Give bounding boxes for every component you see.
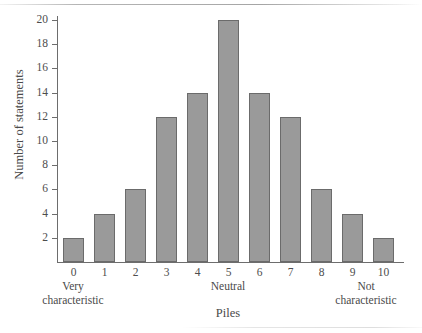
y-axis-tick-label: 14 — [26, 87, 48, 99]
y-axis-tick — [52, 20, 57, 21]
x-axis-tick-label: 4 — [183, 266, 213, 278]
axis-anchor-high-line2: characteristic — [312, 294, 420, 308]
y-axis-tick-label: 20 — [26, 14, 48, 26]
y-axis-tick — [52, 165, 57, 166]
y-axis-tick-label-wrap: 4 — [22, 208, 48, 220]
y-axis-tick — [52, 189, 57, 190]
y-axis-tick-label-wrap: 6 — [22, 183, 48, 195]
bar — [125, 189, 146, 262]
axis-anchor-mid: Neutral — [168, 280, 288, 294]
y-axis-tick-label-wrap: 2 — [22, 232, 48, 244]
y-axis-tick — [52, 214, 57, 215]
bar — [187, 93, 208, 262]
axis-anchor-low-line1: Very — [2, 280, 144, 294]
x-axis-tick-label: 8 — [307, 266, 337, 278]
y-axis-tick — [52, 117, 57, 118]
y-axis-tick-label: 6 — [26, 183, 48, 195]
axis-anchor-high: Not characteristic — [312, 280, 420, 307]
y-axis-tick-label-wrap: 18 — [22, 38, 48, 50]
axis-anchor-low-line2: characteristic — [2, 294, 144, 308]
y-axis-tick — [52, 238, 57, 239]
bar — [63, 238, 84, 262]
y-axis-tick-label-wrap: 14 — [22, 87, 48, 99]
y-axis-tick-label-wrap: 10 — [22, 135, 48, 147]
x-axis-tick-label: 6 — [245, 266, 275, 278]
x-axis-tick-label: 7 — [276, 266, 306, 278]
x-axis-tick-label: 9 — [338, 266, 368, 278]
y-axis-tick — [52, 93, 57, 94]
x-axis-line — [57, 262, 404, 263]
x-axis-tick-label: 1 — [90, 266, 120, 278]
y-axis-tick — [52, 68, 57, 69]
y-axis-tick-label: 18 — [26, 38, 48, 50]
bar — [311, 189, 332, 262]
y-axis-tick — [52, 141, 57, 142]
axis-anchor-high-line1: Not — [312, 280, 420, 294]
y-axis-tick-label: 10 — [26, 135, 48, 147]
bar-chart-figure: 2468101214161820 Number of statements 01… — [0, 0, 422, 333]
bar — [249, 93, 270, 262]
axis-anchor-mid-line1: Neutral — [168, 280, 288, 294]
bar — [94, 214, 115, 262]
x-axis-tick-label: 10 — [369, 266, 399, 278]
bar — [342, 214, 363, 262]
y-axis-tick-label: 8 — [26, 159, 48, 171]
axis-anchor-low: Very characteristic — [2, 280, 144, 307]
y-axis-tick-label: 2 — [26, 232, 48, 244]
y-axis-tick-label: 16 — [26, 62, 48, 74]
x-axis-tick-label: 0 — [59, 266, 89, 278]
y-axis-tick-label-wrap: 20 — [22, 14, 48, 26]
y-axis-tick-label-wrap: 8 — [22, 159, 48, 171]
y-axis-tick — [52, 44, 57, 45]
x-axis-tick-label: 5 — [214, 266, 244, 278]
x-axis-title: Piles — [168, 306, 288, 320]
x-axis-tick-label: 3 — [152, 266, 182, 278]
y-axis-tick-label-wrap: 16 — [22, 62, 48, 74]
bar — [280, 117, 301, 262]
y-axis-tick-label-wrap: 12 — [22, 111, 48, 123]
bar — [218, 20, 239, 262]
y-axis-tick-label: 12 — [26, 111, 48, 123]
bar — [373, 238, 394, 262]
y-axis-line — [57, 16, 58, 263]
bar — [156, 117, 177, 262]
x-axis-tick-label: 2 — [121, 266, 151, 278]
y-axis-tick-label: 4 — [26, 208, 48, 220]
y-axis-title: Number of statements — [13, 32, 26, 218]
